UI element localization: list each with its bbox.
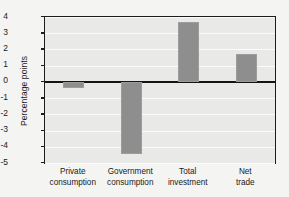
- plot-area: [44, 16, 276, 164]
- y-axis-tick-label: 2: [0, 44, 8, 53]
- gridline: [45, 163, 275, 164]
- x-axis-category-label: Total investment: [159, 167, 217, 188]
- y-axis-tick-label: 3: [0, 28, 8, 37]
- gridline: [45, 17, 275, 18]
- gridline: [45, 33, 275, 34]
- x-axis-category-label: Government consumption: [102, 167, 160, 188]
- bar: [63, 82, 84, 88]
- bar: [178, 22, 199, 82]
- gridline: [45, 98, 275, 99]
- gridline: [45, 131, 275, 132]
- y-axis-tick-label: -1: [0, 93, 8, 102]
- gridline: [45, 49, 275, 50]
- bar-chart-figure: Percentage points 43210-1-2-3-4-5 Privat…: [0, 0, 289, 197]
- y-axis-tick-label: 1: [0, 60, 8, 69]
- y-axis-tick-label: 4: [0, 12, 8, 21]
- bar: [121, 82, 142, 154]
- y-axis-tick-label: -4: [0, 141, 8, 150]
- bar: [236, 54, 257, 82]
- y-axis-tick-label: -5: [0, 158, 8, 167]
- y-axis-title: Percentage points: [19, 31, 29, 151]
- y-axis-tick-label: -3: [0, 125, 8, 134]
- y-axis-tick-label: 0: [0, 76, 8, 85]
- gridline: [45, 147, 275, 148]
- x-axis-category-label: Net trade: [217, 167, 275, 188]
- y-axis-tick-label: -2: [0, 109, 8, 118]
- x-axis-category-label: Private consumption: [44, 167, 102, 188]
- gridline: [45, 114, 275, 115]
